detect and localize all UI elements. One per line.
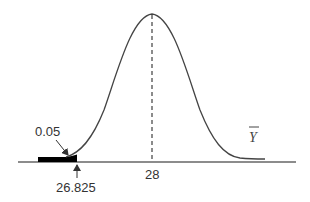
critical-value-label: 26.825 — [56, 180, 96, 195]
tail-area-label: 0.05 — [35, 124, 60, 139]
y-bar-label: Y — [249, 130, 259, 145]
mean-label: 28 — [145, 167, 159, 182]
normal-curve — [66, 14, 265, 159]
tail-area-arrow — [56, 140, 68, 155]
normal-curve-diagram: 0.05 26.825 28 Y — [0, 0, 310, 202]
